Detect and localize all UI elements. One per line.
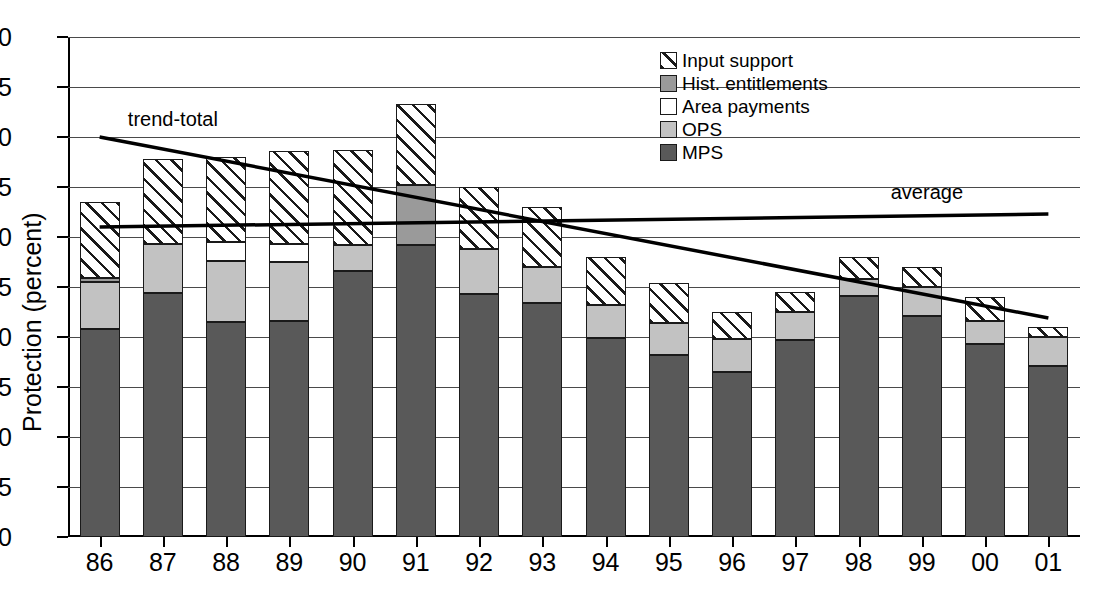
plot-area <box>68 37 1080 537</box>
bar-segment-mps <box>80 329 120 537</box>
y-tick-label: 45 <box>0 75 12 100</box>
bar-segment-ops <box>206 261 246 322</box>
x-tick-mark <box>732 537 734 547</box>
gridline <box>68 37 1080 38</box>
x-tick-label: 00 <box>971 548 999 577</box>
legend-item[interactable]: OPS <box>660 119 828 140</box>
bar-segment-ops <box>902 287 942 316</box>
bar[interactable] <box>965 297 1005 537</box>
x-tick-label: 91 <box>402 548 430 577</box>
x-tick-mark <box>353 537 355 547</box>
bar-segment-input-support <box>712 312 752 339</box>
y-tick-label: 30 <box>0 225 12 250</box>
bar-segment-mps <box>333 271 373 537</box>
y-tick-label: 0 <box>0 525 12 550</box>
bar[interactable] <box>649 283 689 537</box>
trend-total-label: trend-total <box>128 108 218 131</box>
bar-segment-input-support <box>902 267 942 287</box>
x-tick-label: 92 <box>465 548 493 577</box>
x-tick-mark <box>985 537 987 547</box>
bar-segment-mps <box>775 340 815 537</box>
legend-item[interactable]: MPS <box>660 142 828 163</box>
x-tick-label: 97 <box>781 548 809 577</box>
bar-segment-ops <box>965 321 1005 344</box>
x-tick-label: 01 <box>1034 548 1062 577</box>
legend-swatch-icon <box>660 75 677 92</box>
legend-swatch-icon <box>660 52 677 69</box>
bar-segment-mps <box>206 322 246 537</box>
bar-segment-ops <box>712 339 752 372</box>
bar[interactable] <box>396 104 436 537</box>
bar[interactable] <box>459 187 499 537</box>
bar-segment-input-support <box>965 297 1005 321</box>
bar-segment-input-support <box>775 292 815 312</box>
bar-segment-ops <box>649 323 689 355</box>
y-axis-title: Protection (percent) <box>18 212 47 432</box>
gridline <box>68 87 1080 88</box>
bar-segment-mps <box>459 294 499 537</box>
legend-label: Hist. entitlements <box>682 74 828 93</box>
bar[interactable] <box>902 267 942 537</box>
y-tick-label: 50 <box>0 25 12 50</box>
bar-segment-mps <box>712 372 752 537</box>
bar-segment-hist-entitlements <box>396 185 436 245</box>
bar[interactable] <box>143 159 183 537</box>
bar-segment-ops <box>269 262 309 321</box>
x-tick-mark <box>1048 537 1050 547</box>
x-tick-mark <box>859 537 861 547</box>
bar-segment-mps <box>965 344 1005 537</box>
bar-segment-input-support <box>522 207 562 267</box>
bar-segment-ops <box>839 279 879 296</box>
legend-label: Area payments <box>682 97 810 116</box>
x-tick-label: 95 <box>655 548 683 577</box>
y-tick-mark <box>57 386 68 388</box>
bar[interactable] <box>522 207 562 537</box>
y-tick-mark <box>57 486 68 488</box>
x-tick-mark <box>542 537 544 547</box>
x-tick-label: 90 <box>339 548 367 577</box>
bar-segment-mps <box>396 245 436 537</box>
bar-segment-ops <box>775 312 815 340</box>
y-tick-mark <box>57 536 68 538</box>
bar[interactable] <box>206 157 246 537</box>
bar[interactable] <box>712 312 752 537</box>
legend-item[interactable]: Area payments <box>660 96 828 117</box>
bar-segment-area-payments <box>269 244 309 262</box>
bar-segment-input-support <box>586 257 626 305</box>
x-tick-label: 86 <box>86 548 114 577</box>
y-tick-label: 20 <box>0 325 12 350</box>
y-tick-mark <box>57 136 68 138</box>
y-tick-label: 15 <box>0 375 12 400</box>
bar-segment-mps <box>649 355 689 537</box>
bar[interactable] <box>269 151 309 537</box>
legend-item[interactable]: Input support <box>660 50 828 71</box>
bar[interactable] <box>80 202 120 537</box>
bar-segment-ops <box>143 244 183 293</box>
bar-segment-input-support <box>396 104 436 185</box>
y-tick-mark <box>57 86 68 88</box>
bar-segment-input-support <box>206 157 246 242</box>
y-tick-label: 5 <box>0 475 12 500</box>
bar-segment-hist-entitlements <box>80 278 120 282</box>
bar-segment-mps <box>902 316 942 537</box>
y-tick-mark <box>57 286 68 288</box>
bar[interactable] <box>839 257 879 537</box>
bar-segment-input-support <box>269 151 309 244</box>
average-label: average <box>891 181 963 204</box>
x-tick-mark <box>289 537 291 547</box>
bar[interactable] <box>1028 327 1068 537</box>
bar-segment-ops <box>80 282 120 329</box>
gridline <box>68 137 1080 138</box>
bar-segment-ops <box>459 249 499 294</box>
legend-swatch-icon <box>660 144 677 161</box>
legend-label: OPS <box>682 120 722 139</box>
bar[interactable] <box>586 257 626 537</box>
bar[interactable] <box>775 292 815 537</box>
bar[interactable] <box>333 150 373 537</box>
x-tick-mark <box>606 537 608 547</box>
bar-segment-area-payments <box>206 242 246 261</box>
legend-item[interactable]: Hist. entitlements <box>660 73 828 94</box>
legend-swatch-icon <box>660 98 677 115</box>
x-tick-label: 99 <box>908 548 936 577</box>
chart-legend: Input supportHist. entitlementsArea paym… <box>660 50 828 163</box>
